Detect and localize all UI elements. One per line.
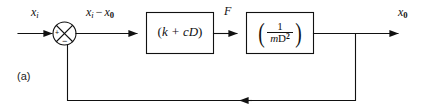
output-signal-subscript: 0 — [403, 10, 407, 20]
figure-caption: (a) — [17, 71, 30, 82]
block2-denominator-operator: D — [278, 33, 286, 45]
error-right-subscript: 0 — [110, 10, 114, 20]
output-signal-label: x0 — [398, 6, 408, 20]
force-signal-label: F — [224, 5, 231, 17]
input-signal-label: xi — [31, 6, 39, 20]
block2-fraction: 1 mD2 — [267, 21, 293, 46]
block2-denominator: mD2 — [267, 32, 293, 45]
block2-numerator: 1 — [267, 21, 293, 33]
summing-junction-plus-sign: + — [55, 29, 59, 36]
error-signal-label: xi−x0 — [86, 6, 114, 20]
summing-junction-minus-sign: − — [62, 37, 67, 46]
block-diagram-figure: + − xi xi−x0 F x0 (k + cD) ( 1 mD2 ) (a) — [0, 0, 423, 109]
error-operator: − — [94, 5, 105, 19]
block-mass-inertia-label: ( 1 mD2 ) — [246, 17, 314, 49]
block-stiffness-damping-label: (k + cD) — [146, 24, 214, 40]
block2-denominator-mass: m — [270, 33, 278, 45]
block1-close-paren: ) — [198, 24, 202, 39]
diagram-canvas — [0, 0, 423, 109]
block1-expression: k + cD — [162, 24, 198, 39]
block2-denominator-exponent: 2 — [286, 32, 290, 41]
input-signal-subscript: i — [36, 10, 38, 20]
block2-close-paren: ) — [295, 20, 301, 47]
block2-open-paren: ( — [258, 20, 264, 47]
